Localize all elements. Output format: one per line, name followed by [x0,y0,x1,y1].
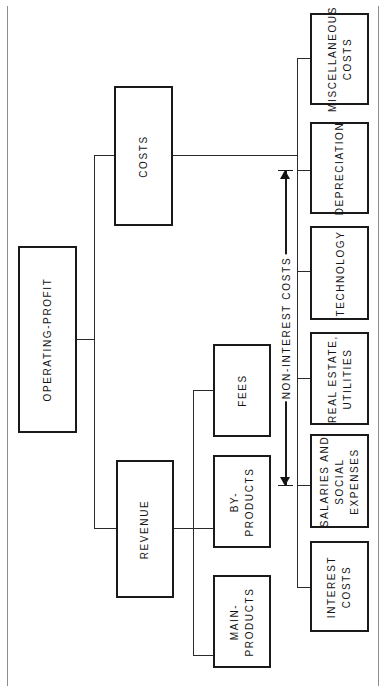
diagram-canvas: NON-INTEREST COSTS OPERATING-PROFIT COST… [0,0,387,692]
edge-revenue-stub [173,528,194,529]
node-fees[interactable]: FEES [213,344,271,437]
node-interest-costs[interactable]: INTEREST COSTS [310,541,369,632]
edge-costs-stub [172,155,298,156]
page-border-left [7,6,8,686]
node-label: REVENUE [138,499,153,559]
node-label: MISCELLANEOUS COSTS [325,6,355,112]
node-label: INTEREST COSTS [325,555,355,617]
edge-revenue-to-main-products [193,655,214,656]
node-technology[interactable]: TECHNOLOGY [310,226,369,320]
node-label: BY- PRODUCTS [227,467,257,536]
arrowhead-down-icon [280,477,290,486]
node-revenue[interactable]: REVENUE [116,460,174,598]
edge-revenue-to-fees [193,390,214,391]
node-label: FEES [235,374,250,407]
node-label: SALARIES AND SOCIAL EXPENSES [317,435,362,526]
node-by-products[interactable]: BY- PRODUCTS [213,455,271,548]
annotation-non-interest-costs: NON-INTEREST COSTS [277,170,295,486]
arrowhead-up-icon [280,170,290,179]
node-main-products[interactable]: MAIN- PRODUCTS [213,575,271,668]
node-label: COSTS [136,135,151,177]
page-border-right [378,6,379,686]
node-label: TECHNOLOGY [332,230,347,316]
annotation-label: NON-INTEREST COSTS [278,255,295,402]
node-label: DEPRECIATION [332,121,347,214]
node-real-estate-utilities[interactable]: REAL ESTATE, UTILITIES [310,332,369,425]
edge-root-to-revenue [94,528,117,529]
edge-root-to-costs [94,155,115,156]
node-miscellaneous-costs[interactable]: MISCELLANEOUS COSTS [310,13,369,105]
edge-revenue-to-by-products [193,528,214,529]
node-label: OPERATING-PROFIT [40,278,55,402]
node-operating-profit[interactable]: OPERATING-PROFIT [18,246,77,433]
node-label: REAL ESTATE, UTILITIES [325,335,355,423]
node-depreciation[interactable]: DEPRECIATION [310,122,369,214]
node-label: MAIN- PRODUCTS [227,587,257,656]
edge-costs-trunk [297,58,298,588]
edge-root-trunk [94,155,95,529]
edge-root-stub [77,339,95,340]
edge-revenue-trunk [193,390,194,656]
node-costs[interactable]: COSTS [114,86,173,226]
node-salaries-social-expenses[interactable]: SALARIES AND SOCIAL EXPENSES [310,434,369,528]
